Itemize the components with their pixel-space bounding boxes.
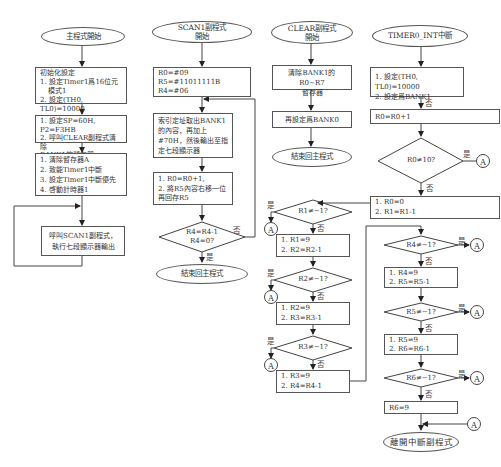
main-start-terminal: 主程式開始 (41, 27, 125, 46)
r2-yes-label: 是 (267, 267, 274, 278)
scan1-fetch-line2: 的內容，再加上 (158, 126, 228, 136)
r5-decision: R5≠−1? (396, 308, 446, 317)
scan1-end-label: 結束回主程式 (181, 269, 223, 279)
r1-box-line2: 2. R2=R2-1 (281, 246, 345, 256)
r3-box-line1: 1. R3=9 (281, 372, 345, 382)
r5-box: 1. R5=9 2. R6=R6-1 (384, 334, 458, 355)
connector-a-r4: A (470, 238, 484, 252)
r3-box-line2: 2. R4=R4-1 (281, 382, 345, 392)
scan1-yes-label: 是 (206, 251, 213, 262)
r4-box-line1: 1. R4=9 (389, 269, 453, 278)
timer-inc-label: R0=R0+1 (375, 112, 495, 122)
r2-no-label: 否 (317, 290, 324, 301)
main-timer-step1: 1. 清除暫存器A (40, 155, 122, 165)
r2-box: 1. R2=9 2. R3=R3-1 (276, 302, 350, 325)
main-timer-step2: 2. 致能Timer1中斷 (40, 165, 122, 175)
scan1-shift-line1: 1. R0=R0+1, (158, 175, 228, 185)
r0-reset-box: 1. R0=0 2. R1=R1-1 (370, 196, 500, 219)
clear-step2-box: 再設定爲BANK0 (272, 111, 352, 128)
clear-step2-label: 再設定爲BANK0 (277, 114, 347, 126)
r0-yes-label: 是 (463, 148, 470, 159)
scan1-decision: R4=R4-1 R4=0? (172, 228, 232, 246)
r3-box: 1. R3=9 2. R4=R4-1 (276, 370, 350, 393)
r0-reset-line2: 2. R1=R1-1 (375, 208, 495, 218)
scan1-shift-line2: 2. 將R5內容右移一位 (158, 185, 228, 195)
main-setup-step2: 2. 呼叫CLEAR副程式清除 (40, 134, 122, 151)
r4-decision: R4≠−1? (396, 241, 446, 250)
scan1-shift-line3: 再回存R5 (158, 194, 228, 204)
main-timer-setup-box: 1. 清除暫存器A 2. 致能Timer1中斷 3. 設定Timer1中斷優先 … (35, 153, 127, 196)
scan1-fetch-box: 索引定址取出BANK1 的內容，再加上 #70H，然後輸出至指 定七段顯示器 (153, 113, 233, 158)
r6-box: R6=9 (384, 401, 458, 414)
r6-decision: R6≠−1? (396, 374, 446, 383)
scan1-fetch-line3: #70H，然後輸出至指 (158, 136, 228, 146)
main-setup-step1: 1. 設定SP=60H, P2=F3HB (40, 117, 122, 134)
r1-box-line1: 1. R1=9 (281, 236, 345, 246)
connector-a-exit: A (467, 417, 481, 431)
r5-yes-label: 是 (458, 302, 465, 313)
scan1-init-r5: R5=#11011111B (158, 78, 246, 87)
timer-step1-line2: 2. 設定爲BANK1 (375, 92, 459, 102)
connector-a-r5: A (470, 305, 484, 319)
r6-no-label: 否 (425, 388, 432, 399)
timer-inc-box: R0=R0+1 (370, 109, 500, 124)
clear-end-label: 結束回主程式 (291, 152, 333, 162)
connector-a-r0: A (476, 154, 490, 168)
r1-decision: R1≠−1? (288, 207, 338, 216)
scan1-start-terminal: SCAN1副程式 開始 (152, 21, 252, 43)
timer-end-terminal: 離開中斷副程式 (383, 432, 459, 452)
scan1-decision-line2: R4=0? (172, 237, 232, 246)
connector-a-r6: A (470, 371, 484, 385)
r2-box-line2: 2. R3=R3-1 (281, 314, 345, 324)
main-init-box: 初始化設定 1. 設定Timer1爲16位元 模式1 2. 設定(TH0, TL… (35, 67, 127, 104)
r4-yes-label: 是 (458, 235, 465, 246)
scan1-end-terminal: 結束回主程式 (156, 264, 248, 284)
scan1-start-line1: SCAN1副程式 (178, 23, 227, 32)
timer-start-label: TIMER0_INT中斷 (388, 31, 452, 41)
scan1-start-line2: 開始 (195, 32, 209, 41)
main-loop-line2: 執行七段顯示器輸出 (46, 242, 120, 253)
r0-reset-line1: 1. R0=0 (375, 198, 495, 208)
main-init-step1: 1. 設定Timer1爲16位元 (40, 78, 122, 87)
scan1-no-label: 否 (233, 224, 240, 235)
clear-step1-box: 清除BANK1的R0~R7 暫存器 (272, 65, 352, 90)
r5-no-label: 否 (425, 322, 432, 333)
main-setup-box: 1. 設定SP=60H, P2=F3HB 2. 呼叫CLEAR副程式清除 BAN… (35, 115, 127, 143)
r3-yes-label: 是 (267, 335, 274, 346)
r4-box: 1. R4=9 2. R5=R5-1 (384, 267, 458, 288)
clear-start-terminal: CLEAR副程式 開始 (271, 21, 353, 44)
scan1-decision-line1: R4=R4-1 (172, 228, 232, 237)
clear-end-terminal: 結束回主程式 (272, 147, 352, 167)
r6-box-label: R6=9 (389, 404, 453, 412)
scan1-fetch-line4: 定七段顯示器 (158, 146, 228, 156)
main-start-label: 主程式開始 (66, 32, 101, 42)
scan1-shift-box: 1. R0=R0+1, 2. 將R5內容右移一位 再回存R5 (153, 172, 233, 205)
r4-no-label: 否 (425, 255, 432, 266)
scan1-init-r4: R4=#06 (158, 87, 246, 96)
timer-start-terminal: TIMER0_INT中斷 (372, 25, 468, 47)
clear-start-line1: CLEAR副程式 (288, 24, 336, 33)
clear-start-line2: 開始 (305, 33, 319, 42)
r1-yes-label: 是 (267, 199, 274, 210)
main-init-step1b: 模式1 (40, 87, 122, 96)
r2-box-line1: 1. R2=9 (281, 304, 345, 314)
r4-box-line2: 2. R5=R5-1 (389, 278, 453, 287)
main-loop-line1: 呼叫SCAN1副程式， (46, 231, 120, 242)
r1-box: 1. R1=9 2. R2=R2-1 (276, 234, 350, 257)
timer-end-label: 離開中斷副程式 (390, 437, 453, 447)
clear-step1-line1: 清除BANK1的R0~R7 (277, 68, 347, 88)
scan1-fetch-line1: 索引定址取出BANK1 (158, 116, 228, 126)
r2-decision: R2≠−1? (288, 275, 338, 284)
scan1-init-box: R0=#09 R5=#11011111B R4=#06 (153, 67, 251, 97)
r0-decision: R0≠10? (396, 156, 446, 165)
timer-step1-box: 1. 設定(TH0, TL0)=10000 2. 設定爲BANK1 (370, 67, 464, 97)
timer-no-label-1: 否 (425, 97, 432, 108)
main-timer-step4: 4. 啓動計時器1 (40, 185, 122, 195)
r0-no-label: 否 (426, 182, 433, 193)
main-timer-step3: 3. 設定Timer1中斷優先 (40, 175, 122, 185)
r5-box-line2: 2. R6=R6-1 (389, 345, 453, 354)
main-loop-box: 呼叫SCAN1副程式， 執行七段顯示器輸出 (41, 226, 125, 256)
scan1-init-r0: R0=#09 (158, 69, 246, 78)
r5-box-line1: 1. R5=9 (389, 336, 453, 345)
r3-decision: R3≠−1? (288, 343, 338, 352)
